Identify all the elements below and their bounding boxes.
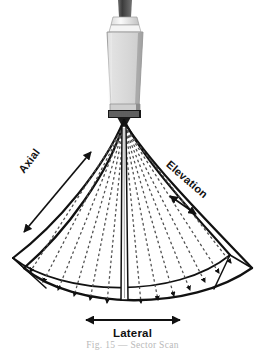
beam-line <box>124 126 205 282</box>
beam-line <box>124 126 190 290</box>
probe-neck <box>109 25 141 32</box>
array-elements <box>110 111 138 117</box>
front-left-edge <box>24 122 124 268</box>
probe-cable <box>118 0 132 17</box>
probe-collar <box>111 17 139 25</box>
probe-body-highlight <box>108 33 112 105</box>
beam-line <box>74 126 124 296</box>
back-left-edge <box>13 120 124 258</box>
beam-line <box>43 126 124 282</box>
lateral-label: Lateral <box>0 327 265 339</box>
transducer-probe <box>107 0 143 126</box>
center-beam-axis <box>124 128 125 298</box>
beam-line <box>124 126 174 296</box>
front-right-edge <box>124 122 252 268</box>
beam-line <box>124 126 158 300</box>
beam-line <box>58 126 124 290</box>
center-beam-slab <box>121 126 128 300</box>
figure-caption: Fig. 15 — Sector Scan <box>0 340 265 350</box>
